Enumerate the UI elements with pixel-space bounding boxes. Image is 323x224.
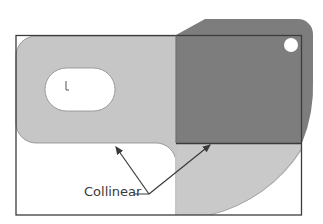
arc-region — [176, 143, 302, 215]
hole — [284, 38, 298, 52]
light-part-strip — [175, 143, 177, 215]
diagram-canvas — [0, 0, 323, 224]
collinear-label: Collinear — [84, 184, 141, 199]
dark-part — [176, 19, 313, 143]
slot — [45, 68, 115, 111]
